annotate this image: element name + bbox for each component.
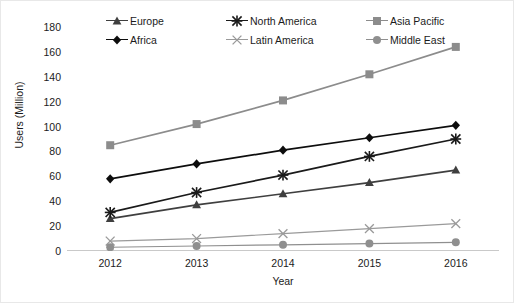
square-marker (452, 43, 460, 51)
y-axis-tick: 20 (27, 221, 61, 232)
series-canvas (67, 27, 499, 251)
circle-marker (452, 238, 460, 246)
y-axis-tick: 80 (27, 146, 61, 157)
x-axis-tick: 2014 (253, 257, 313, 269)
line-chart: EuropeNorth AmericaAsia PacificAfricaLat… (0, 0, 514, 303)
asterisk-marker (105, 207, 116, 218)
legend-triangle-icon (106, 15, 128, 27)
plot-area (67, 27, 499, 251)
triangle-marker (451, 166, 460, 174)
y-axis-tick: 100 (27, 121, 61, 132)
circle-marker (193, 242, 201, 250)
circle-marker (106, 243, 114, 251)
y-axis-tick: 120 (27, 96, 61, 107)
y-axis-title: Users (Million) (13, 50, 25, 180)
asterisk-marker (364, 151, 375, 162)
circle-marker (365, 240, 373, 248)
legend-item-label: Europe (130, 15, 164, 27)
diamond-marker (452, 121, 460, 130)
x-axis-tick: 2013 (167, 257, 227, 269)
diamond-marker (192, 159, 200, 168)
x-axis-tick: 2015 (339, 257, 399, 269)
asterisk-marker (191, 187, 202, 198)
y-axis-tick: 40 (27, 196, 61, 207)
y-axis-tick: 0 (27, 246, 61, 257)
series-asia-pacific (106, 43, 460, 149)
series-line (110, 47, 456, 145)
asterisk-marker (232, 15, 243, 26)
square-marker (365, 70, 373, 78)
circle-marker (279, 241, 287, 249)
diamond-marker (365, 133, 373, 142)
x-axis-tick-labels: 20122013201420152016 (67, 257, 499, 271)
triangle-marker (113, 16, 122, 24)
y-axis-tick: 140 (27, 71, 61, 82)
legend-asterisk-icon (226, 15, 248, 27)
x-axis-tick: 2016 (426, 257, 486, 269)
y-axis-tick: 60 (27, 171, 61, 182)
square-marker (193, 120, 201, 128)
x-axis-tick: 2012 (80, 257, 140, 269)
y-axis-tick: 180 (27, 22, 61, 33)
asterisk-marker (450, 134, 461, 145)
diamond-marker (106, 174, 114, 183)
legend-item-label: Asia Pacific (390, 15, 444, 27)
y-axis-tick: 160 (27, 46, 61, 57)
asterisk-marker (278, 170, 289, 181)
square-marker (106, 141, 114, 149)
diamond-marker (279, 146, 287, 155)
series-line (110, 224, 456, 241)
legend-square-icon (366, 15, 388, 27)
y-axis-tick-labels: 180160140120100806040200 (23, 27, 61, 251)
x-axis-title: Year (67, 275, 499, 287)
square-marker (279, 96, 287, 104)
legend-item-label: North America (250, 15, 317, 27)
square-marker (373, 17, 381, 25)
